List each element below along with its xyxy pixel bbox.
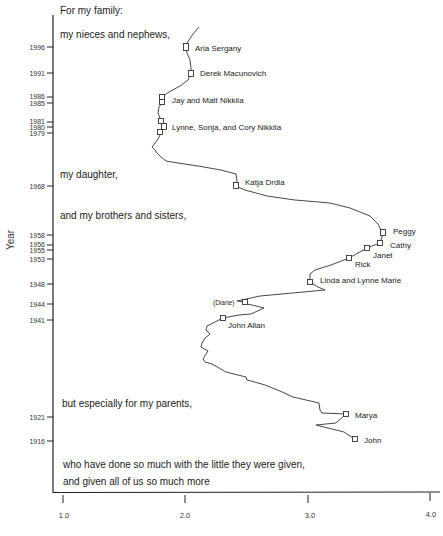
marker-john-allan <box>221 316 226 321</box>
chart-canvas: Year 1996 1991 1986 1985 1981 1980 1979 … <box>0 0 443 536</box>
y-axis-label: Year <box>5 229 16 250</box>
marker-linda <box>308 280 313 285</box>
dedication-line: For my family: <box>60 5 123 16</box>
y-tick-label: 1953 <box>29 256 45 263</box>
x-axis-line <box>53 492 440 493</box>
dedication-text: For my family: my nieces and nephews, my… <box>60 5 305 487</box>
y-tick-label: 1985 <box>29 100 45 107</box>
dedication-line: but especially for my parents, <box>62 398 192 409</box>
label-marya: Marya <box>355 411 378 420</box>
marker-sonja <box>162 124 167 130</box>
label-aria: Aria Sergany <box>195 44 241 53</box>
label-john: John <box>364 436 381 445</box>
dedication-line: and my brothers and sisters, <box>60 210 186 221</box>
dedication-line: and given all of us so much more <box>63 476 210 487</box>
family-timeline-line <box>152 27 383 439</box>
x-tick-label: 1.0 <box>59 511 69 520</box>
dedication-line: who have done so much with the little th… <box>62 459 305 470</box>
x-tick-label: 2.0 <box>180 511 190 520</box>
label-cathy: Cathy <box>390 241 411 250</box>
y-tick-label: 1996 <box>29 44 45 51</box>
marker-cory <box>158 130 163 135</box>
y-tick-label: 1991 <box>29 70 45 77</box>
marker-matt <box>160 100 165 105</box>
marker-diane <box>243 300 248 305</box>
x-ticks <box>63 493 430 503</box>
label-derek: Derek Macunovich <box>200 69 266 78</box>
label-jay-matt: Jay and Matt Nikkila <box>172 96 244 105</box>
y-tick-label: 1916 <box>29 438 45 445</box>
marker-janet <box>365 246 370 251</box>
marker-derek <box>189 71 194 77</box>
label-janet: Janet <box>373 251 393 260</box>
marker-john <box>353 437 358 442</box>
y-tick-label: 1921 <box>29 414 45 421</box>
y-tick-label: 1986 <box>29 93 45 100</box>
marker-cathy <box>378 241 383 246</box>
label-lynne-sonja-cory: Lynne, Sonja, and Cory Nikkila <box>172 123 282 132</box>
x-tick-label: 3.0 <box>305 511 315 520</box>
y-tick-labels: 1996 1991 1986 1985 1981 1980 1979 1968 … <box>29 44 45 445</box>
y-tick-label: 1968 <box>29 183 45 190</box>
marker-peggy <box>381 230 386 236</box>
y-tick-label: 1958 <box>29 232 45 239</box>
label-katja: Katja Drdla <box>245 178 285 187</box>
y-tick-label: 1944 <box>29 301 45 308</box>
marker-marya <box>344 412 349 417</box>
x-tick-labels: 1.0 2.0 3.0 4.0 <box>59 510 436 520</box>
y-tick-label: 1955 <box>29 247 45 254</box>
label-rick: Rick <box>355 260 372 269</box>
y-ticks <box>47 47 53 441</box>
x-tick-label: 4.0 <box>426 510 436 519</box>
label-john-allan: John Allan <box>228 321 265 330</box>
dedication-line: my daughter, <box>60 169 118 180</box>
marker-aria <box>184 44 189 51</box>
y-tick-label: 1979 <box>29 130 45 137</box>
y-tick-label: 1948 <box>29 281 45 288</box>
marker-jay <box>160 95 165 100</box>
label-diane: (Diane) <box>213 299 234 307</box>
label-linda-lynne-marie: Linda and Lynne Marie <box>320 276 402 285</box>
marker-katja <box>234 183 239 189</box>
dedication-line: my nieces and nephews, <box>60 29 170 40</box>
y-tick-label: 1941 <box>29 317 45 324</box>
marker-lynne <box>159 119 164 124</box>
marker-rick <box>347 256 352 261</box>
label-peggy: Peggy <box>393 227 416 236</box>
